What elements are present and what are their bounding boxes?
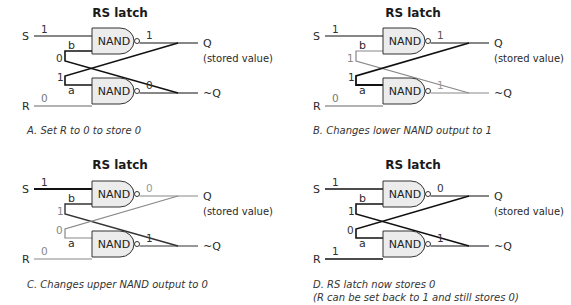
caption-line: C. Changes upper NAND output to 0 xyxy=(27,278,208,291)
lower-inverter-bubble xyxy=(135,242,140,247)
s-value: 1 xyxy=(41,23,48,35)
lower-gate-label: NAND xyxy=(389,238,421,251)
pin-a-label: a xyxy=(68,84,75,97)
upper-output-value: 0 xyxy=(146,182,153,194)
s-value: 1 xyxy=(332,176,339,188)
caption-line: D. RS latch now stores 0 xyxy=(313,278,519,291)
stored-value-label: (stored value) xyxy=(494,206,564,217)
s-label: S xyxy=(22,30,29,43)
lower-output-value: 1 xyxy=(437,79,444,91)
pin-a-label: a xyxy=(359,237,366,250)
lower-output-value: 1 xyxy=(437,232,444,244)
caption-line: B. Changes lower NAND output to 1 xyxy=(313,124,492,137)
lower-inverter-bubble xyxy=(135,89,140,94)
pin-b-value: 0 xyxy=(56,52,63,64)
caption-line: A. Set R to 0 to store 0 xyxy=(27,124,141,137)
panel-c: RS latch S 1 R 0 b 1 a 0 NAND 0 NAND 1 Q… xyxy=(0,152,285,304)
pin-b-label: b xyxy=(359,39,366,52)
panel-a: RS latch S 1 R 0 b 0 a 1 NAND 1 NAND 0 Q… xyxy=(0,0,285,152)
lower-inverter-bubble xyxy=(426,242,431,247)
not-q-label: ~Q xyxy=(494,240,512,253)
r-value: 1 xyxy=(332,245,339,257)
q-label: Q xyxy=(203,37,212,50)
r-value: 0 xyxy=(41,245,48,257)
stored-value-label: (stored value) xyxy=(494,53,564,64)
r-label: R xyxy=(313,253,321,266)
q-label: Q xyxy=(203,190,212,203)
stored-value-label: (stored value) xyxy=(203,53,273,64)
lower-gate-label: NAND xyxy=(98,238,130,251)
upper-inverter-bubble xyxy=(135,39,140,44)
r-value: 0 xyxy=(41,92,48,104)
diagram-title: RS latch xyxy=(385,6,441,20)
pin-b-value: 1 xyxy=(57,205,64,217)
lower-gate-label: NAND xyxy=(389,85,421,98)
upper-inverter-bubble xyxy=(135,192,140,197)
s-label: S xyxy=(313,183,320,196)
q-label: Q xyxy=(494,37,503,50)
not-q-label: ~Q xyxy=(203,87,221,100)
upper-output-value: 1 xyxy=(146,29,153,41)
diagram-title: RS latch xyxy=(385,158,441,172)
caption-line: (R can be set back to 1 and still stores… xyxy=(313,291,519,304)
upper-gate-label: NAND xyxy=(389,188,421,201)
r-label: R xyxy=(22,253,30,266)
stored-value-label: (stored value) xyxy=(203,206,273,217)
s-label: S xyxy=(313,30,320,43)
upper-gate-label: NAND xyxy=(98,188,130,201)
pin-a-value: 0 xyxy=(347,224,354,236)
caption: B. Changes lower NAND output to 1 xyxy=(313,124,492,137)
r-value: 0 xyxy=(332,92,339,104)
pin-b-label: b xyxy=(68,39,75,52)
pin-a-value: 1 xyxy=(348,71,355,83)
caption: D. RS latch now stores 0 (R can be set b… xyxy=(313,278,519,304)
not-q-label: ~Q xyxy=(494,87,512,100)
pin-b-value: 1 xyxy=(347,52,354,64)
pin-b-label: b xyxy=(68,192,75,205)
s-label: S xyxy=(22,183,29,196)
pin-b-value: 1 xyxy=(348,205,355,217)
q-label: Q xyxy=(494,190,503,203)
upper-output-value: 0 xyxy=(437,182,444,194)
upper-gate-label: NAND xyxy=(98,35,130,48)
caption: A. Set R to 0 to store 0 xyxy=(27,124,141,137)
pin-b-label: b xyxy=(359,192,366,205)
pin-a-label: a xyxy=(359,84,366,97)
diagram-title: RS latch xyxy=(92,158,148,172)
upper-inverter-bubble xyxy=(426,39,431,44)
s-value: 1 xyxy=(41,176,48,188)
upper-inverter-bubble xyxy=(426,192,431,197)
lower-inverter-bubble xyxy=(426,89,431,94)
s-value: 1 xyxy=(332,23,339,35)
not-q-label: ~Q xyxy=(203,240,221,253)
panel-d: RS latch S 1 R 1 b 1 a 0 NAND 0 NAND 1 Q… xyxy=(285,152,570,304)
pin-a-value: 0 xyxy=(56,224,63,236)
r-label: R xyxy=(313,100,321,113)
diagram-title: RS latch xyxy=(92,6,148,20)
upper-output-value: 1 xyxy=(437,29,444,41)
panel-b: RS latch S 1 R 0 b 1 a 1 NAND 1 NAND 1 Q… xyxy=(285,0,570,152)
upper-gate-label: NAND xyxy=(389,35,421,48)
lower-output-value: 1 xyxy=(146,232,153,244)
caption: C. Changes upper NAND output to 0 xyxy=(27,278,208,291)
lower-output-value: 0 xyxy=(146,79,153,91)
lower-gate-label: NAND xyxy=(98,85,130,98)
pin-a-label: a xyxy=(68,237,75,250)
r-label: R xyxy=(22,100,30,113)
pin-a-value: 1 xyxy=(57,71,64,83)
